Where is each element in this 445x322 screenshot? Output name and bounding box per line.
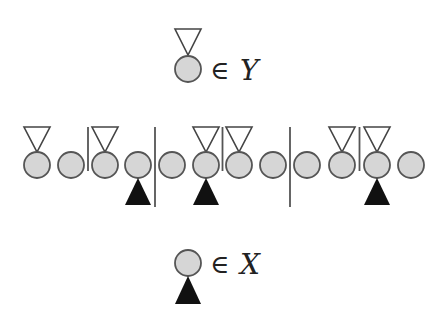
sequence-node: [92, 127, 118, 178]
filled-triangle-marker-icon: [364, 178, 390, 205]
set-label-x: X: [238, 248, 261, 281]
legend-x: ∈ X: [175, 248, 261, 304]
node-circle-icon: [294, 152, 320, 178]
open-triangle-marker-icon: [175, 29, 201, 55]
sequence-node: [398, 152, 424, 178]
filled-triangle-marker-icon: [175, 276, 201, 304]
sequence-node: [364, 127, 390, 205]
node-circle-icon: [125, 152, 151, 178]
node-circle-icon: [175, 56, 201, 82]
node-circle-icon: [364, 152, 390, 178]
node-circle-icon: [226, 152, 252, 178]
element-of-symbol: ∈: [210, 55, 229, 85]
element-of-symbol: ∈: [210, 249, 229, 279]
sequence-node: [193, 127, 219, 205]
node-circle-icon: [398, 152, 424, 178]
filled-triangle-marker-icon: [193, 178, 219, 205]
sequence-node: [24, 127, 50, 178]
set-membership-diagram: ∈ Y ∈ X: [0, 0, 445, 322]
open-triangle-marker-icon: [92, 127, 118, 152]
open-triangle-marker-icon: [24, 127, 50, 152]
sequence-node: [125, 152, 151, 205]
sequence-node: [260, 152, 286, 178]
sequence-node: [58, 152, 84, 178]
open-triangle-marker-icon: [193, 127, 219, 152]
open-triangle-marker-icon: [329, 127, 355, 152]
sequence-node: [226, 127, 252, 178]
node-circle-icon: [159, 152, 185, 178]
legend-y: ∈ Y: [175, 29, 261, 87]
node-circle-icon: [24, 152, 50, 178]
sequence-node: [294, 152, 320, 178]
set-label-y: Y: [240, 54, 261, 87]
node-circle-icon: [175, 250, 201, 276]
open-triangle-marker-icon: [226, 127, 252, 152]
open-triangle-marker-icon: [364, 127, 390, 152]
sequence-node: [329, 127, 355, 178]
node-circle-icon: [193, 152, 219, 178]
filled-triangle-marker-icon: [125, 178, 151, 205]
node-sequence: [24, 127, 424, 207]
node-circle-icon: [92, 152, 118, 178]
sequence-node: [159, 152, 185, 178]
node-circle-icon: [58, 152, 84, 178]
node-circle-icon: [260, 152, 286, 178]
node-circle-icon: [329, 152, 355, 178]
